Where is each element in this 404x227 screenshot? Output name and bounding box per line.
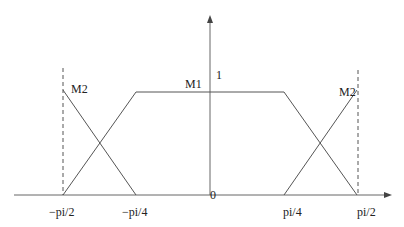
y-label-one: 1 <box>216 68 222 82</box>
x-tick-neg-pi-2: −pi/2 <box>49 205 74 219</box>
x-tick-pi-2: pi/2 <box>357 205 376 219</box>
y-axis-arrow-icon <box>207 15 213 23</box>
x-axis <box>14 192 392 198</box>
label-m2-right: M2 <box>339 85 356 99</box>
x-axis-arrow-icon <box>384 192 392 198</box>
y-label-zero: 0 <box>210 188 216 202</box>
y-axis <box>207 15 213 195</box>
x-tick-neg-pi-4: −pi/4 <box>122 205 147 219</box>
label-m2-left: M2 <box>71 82 88 96</box>
x-tick-pi-4: pi/4 <box>283 205 302 219</box>
membership-function-diagram: M2 M1 M2 1 0 −pi/2 −pi/4 pi/4 pi/2 <box>0 0 404 227</box>
label-m1: M1 <box>185 77 202 91</box>
